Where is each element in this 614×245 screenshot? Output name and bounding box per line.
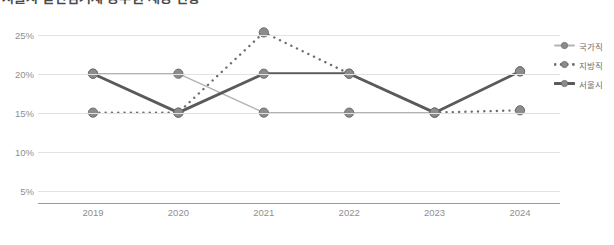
legend-item-지방직[interactable]: 지방직 bbox=[554, 57, 614, 72]
legend-swatch-icon bbox=[554, 40, 575, 51]
x-tick-label: 2021 bbox=[253, 207, 274, 218]
y-tick-label: 15% bbox=[0, 107, 34, 118]
legend-item-서울시[interactable]: 서울시 bbox=[554, 76, 614, 91]
chart-legend: 국가직지방직서울시 bbox=[554, 38, 614, 95]
series-국가직 bbox=[93, 71, 520, 112]
gridline bbox=[38, 113, 560, 114]
gridline bbox=[38, 74, 560, 75]
plot-area bbox=[38, 25, 560, 203]
x-tick-label: 2023 bbox=[424, 207, 445, 218]
series-line bbox=[93, 71, 520, 112]
y-axis: 5%10%15%20%25% bbox=[0, 25, 34, 203]
legend-swatch-icon bbox=[554, 59, 575, 70]
legend-label: 국가직 bbox=[579, 40, 603, 52]
series-layer bbox=[38, 25, 560, 203]
chart-title: 서울시 일반임기제 공무원 채용 현황 bbox=[2, 0, 200, 6]
y-tick-label: 25% bbox=[0, 29, 34, 40]
x-axis: 201920202021202220232024 bbox=[38, 207, 560, 227]
legend-item-국가직[interactable]: 국가직 bbox=[554, 38, 614, 53]
line-chart: 서울시 일반임기제 공무원 채용 현황 5%10%15%20%25% 20192… bbox=[0, 0, 614, 245]
series-line bbox=[93, 71, 520, 112]
x-tick-label: 2020 bbox=[168, 207, 189, 218]
y-tick-label: 10% bbox=[0, 146, 34, 157]
legend-swatch-icon bbox=[554, 78, 575, 89]
x-tick-label: 2024 bbox=[509, 207, 530, 218]
x-tick-label: 2019 bbox=[82, 207, 103, 218]
legend-label: 서울시 bbox=[579, 78, 603, 90]
gridline bbox=[38, 152, 560, 153]
y-tick-label: 5% bbox=[0, 185, 34, 196]
series-서울시 bbox=[93, 71, 520, 112]
gridline bbox=[38, 191, 560, 192]
legend-label: 지방직 bbox=[579, 59, 603, 71]
x-tick-label: 2022 bbox=[339, 207, 360, 218]
gridline bbox=[38, 35, 560, 36]
y-tick-label: 20% bbox=[0, 68, 34, 79]
x-axis-line bbox=[38, 203, 560, 204]
